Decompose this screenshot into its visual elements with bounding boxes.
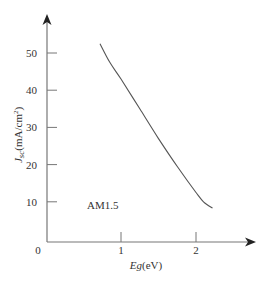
y-ticks: 1020304050 [26, 47, 57, 208]
y-tick-label: 10 [26, 196, 38, 208]
origin-label: 0 [35, 244, 41, 256]
x-tick-label: 1 [118, 244, 124, 256]
y-tick-label: 50 [26, 47, 38, 59]
y-tick-label: 40 [26, 84, 38, 96]
x-tick-label: 2 [193, 244, 199, 256]
y-tick-label: 20 [26, 159, 38, 171]
chart: 1020304050 12 0 AM1.5 Eg(eV) Jsc(mA/cm2) [0, 0, 267, 285]
x-ticks: 12 [118, 232, 199, 256]
y-axis-label: Jsc(mA/cm2) [12, 107, 26, 164]
data-line [100, 44, 213, 208]
annotation-am15: AM1.5 [87, 199, 119, 211]
y-tick-label: 30 [26, 121, 38, 133]
x-axis-label: Eg(eV) [129, 259, 163, 272]
